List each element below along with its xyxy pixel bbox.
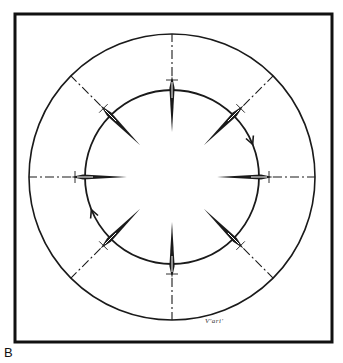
radial-line-top bbox=[166, 34, 178, 132]
radial-line-left bbox=[29, 171, 127, 183]
dash-dot-extension bbox=[243, 76, 273, 106]
figure-frame bbox=[15, 14, 332, 342]
radial-line-bottom-right bbox=[204, 209, 273, 278]
dash-dot-extension bbox=[71, 76, 101, 106]
dash-dot-extension bbox=[71, 248, 101, 278]
dash-dot-extension bbox=[243, 248, 273, 278]
radial-line-bottom bbox=[166, 222, 178, 320]
artist-signature: V'ari' bbox=[205, 317, 223, 325]
radial-line-top-left bbox=[71, 76, 140, 145]
radial-line-right bbox=[217, 171, 315, 183]
radial-line-top-right bbox=[204, 76, 273, 145]
radial-line-bottom-left bbox=[71, 209, 140, 278]
radial-lines-group bbox=[29, 34, 315, 320]
panel-label: B bbox=[4, 345, 13, 360]
radial-diagram bbox=[0, 0, 343, 363]
